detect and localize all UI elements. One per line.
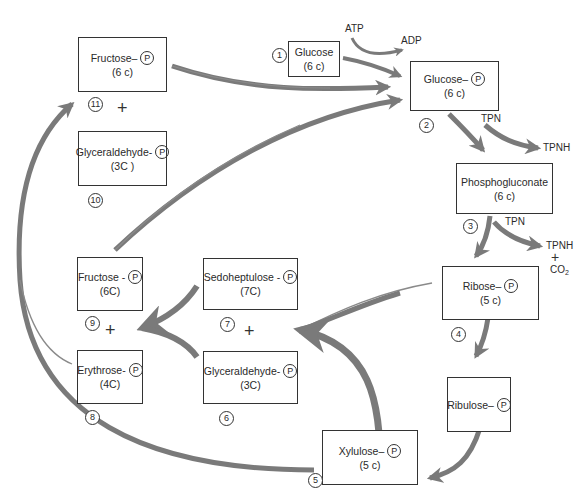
arrow-ribosep-to-ribulosep: [476, 318, 488, 356]
plus-sign: +: [105, 321, 116, 339]
arrow-glucose-to-glucosep: [343, 58, 400, 76]
node-glyceraldehyde-p-6: Glyceraldehyde-P (3C): [203, 351, 298, 404]
node-erythrose-p: Erythrose-P (4C): [77, 350, 143, 404]
step-number-4: 4: [451, 327, 466, 342]
node-phosphogluconate: Phosphogluconate (6 c): [456, 163, 553, 214]
arrow-phosphogluconate-to-ribosep: [476, 216, 490, 256]
cofactor-adp: ADP: [401, 35, 422, 46]
phosphate-icon: P: [283, 364, 297, 378]
step-number-6: 6: [219, 411, 234, 426]
node-name: Phosphogluconate: [461, 175, 548, 189]
carbon-count: (5 c): [360, 458, 381, 472]
node-glucose-p: Glucose–P (6 c): [410, 61, 499, 111]
phosphate-icon: P: [155, 145, 169, 159]
phosphate-icon: P: [129, 363, 143, 377]
step-number-2: 2: [419, 118, 434, 133]
arrow-sedoheptulose-to-transaldolase: [142, 286, 197, 328]
node-name: Erythrose-: [77, 363, 125, 377]
arrow-glucosep-to-phosphogluconate: [449, 114, 483, 150]
node-xylulose-p: Xylulose–P (5 c): [322, 430, 418, 485]
plus-sign: +: [244, 322, 255, 340]
node-name: Xylulose–: [339, 444, 385, 458]
node-name: Glucose–: [424, 72, 468, 86]
carbon-count: (6C): [100, 284, 120, 298]
node-name: Ribulose–: [447, 398, 494, 412]
carbon-count: (3C): [240, 378, 260, 392]
step-number-3: 3: [463, 219, 478, 234]
node-name: Fructose -: [78, 270, 125, 284]
phosphate-icon: P: [497, 398, 511, 412]
arrow-ribulosep-to-xylulosep: [430, 428, 480, 478]
carbon-count: (6 c): [112, 65, 133, 79]
phosphate-icon: P: [471, 72, 485, 86]
carbon-count: (3C ): [111, 159, 134, 173]
arrow-glyceraldehyde6-to-transaldolase: [142, 328, 197, 357]
node-ribose-p: Ribose–P (5 c): [442, 266, 539, 320]
node-name: Ribose–: [463, 279, 502, 293]
node-ribulose-p: Ribulose–P: [447, 377, 511, 432]
cofactor-atp: ATP: [345, 23, 364, 34]
step-number-5: 5: [308, 473, 323, 488]
phosphate-icon: P: [387, 444, 401, 458]
carbon-count: (6 c): [494, 189, 515, 203]
node-name: Sedoheptulose -: [204, 270, 280, 284]
phosphate-icon: P: [283, 270, 297, 284]
cofactor-co2: CO2: [550, 264, 569, 276]
node-name: Glucose: [295, 45, 334, 59]
node-glucose: Glucose (6 c): [288, 41, 340, 77]
phosphate-icon: P: [140, 51, 154, 65]
step-number-1: 1: [272, 48, 287, 63]
carbon-count: (6 c): [444, 86, 465, 100]
cofactor-tpn-2: TPN: [505, 216, 525, 227]
node-name: Glyceraldehyde-: [76, 145, 152, 159]
co2-text: CO: [550, 264, 565, 275]
phosphate-icon: P: [128, 270, 142, 284]
node-name: Fructose–: [91, 51, 138, 65]
node-fructose-p-11: Fructose–P (6 c): [78, 37, 167, 92]
plus-sign: +: [117, 99, 128, 117]
phosphate-icon: P: [504, 279, 518, 293]
step-number-7: 7: [220, 317, 235, 332]
step-number-11: 11: [88, 97, 103, 112]
arrow-tpn-to-tpnh-1: [485, 125, 538, 148]
arrow-atp-to-adp: [352, 38, 402, 54]
arrow-fructose11-to-glucosep: [172, 66, 388, 89]
step-number-10: 10: [88, 193, 103, 208]
node-sedoheptulose-p: Sedoheptulose -P (7C): [203, 258, 298, 310]
carbon-count: (5 c): [480, 293, 501, 307]
node-glyceraldehyde-p-10: Glyceraldehyde-P (3C ): [78, 131, 167, 186]
cofactor-tpn-1: TPN: [481, 113, 501, 124]
carbon-count: (4C): [100, 377, 120, 391]
cofactor-tpnh-1: TPNH: [543, 142, 570, 153]
node-name: Glyceraldehyde-: [204, 364, 280, 378]
carbon-count: (7C): [240, 284, 260, 298]
step-number-8: 8: [85, 410, 100, 425]
carbon-count: (6 c): [304, 59, 325, 73]
node-fructose-p-9: Fructose -P (6C): [77, 257, 143, 311]
step-number-9: 9: [85, 316, 100, 331]
co2-subscript: 2: [565, 269, 569, 276]
